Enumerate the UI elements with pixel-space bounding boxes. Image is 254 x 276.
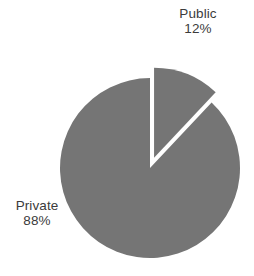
- slice-label-private-name: Private: [0, 198, 74, 213]
- slice-label-public-value: 12%: [152, 21, 244, 36]
- pie-chart-figure: Public 12% Private 88%: [0, 0, 254, 276]
- slice-label-private-value: 88%: [0, 213, 74, 228]
- slice-label-public-name: Public: [152, 6, 244, 21]
- slice-label-private: Private 88%: [0, 198, 74, 228]
- pie-slice-private: [60, 78, 240, 258]
- pie-chart-canvas: [0, 0, 254, 276]
- pie-slices-group: [60, 68, 240, 258]
- slice-label-public: Public 12%: [152, 6, 244, 36]
